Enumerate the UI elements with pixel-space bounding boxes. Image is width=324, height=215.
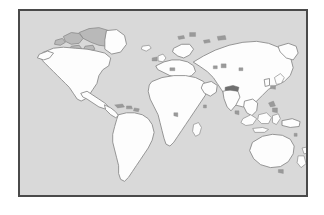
landmass-isle-asia-b (213, 66, 217, 69)
landmass-isle-europe-a (170, 68, 175, 71)
world-map-figure (18, 9, 308, 197)
world-map-svg (20, 11, 306, 195)
landmass-isle-pacific-a (294, 133, 297, 136)
landmass-caribbean-b (127, 106, 133, 109)
page-root (0, 0, 324, 215)
landmass-isle-atlantic-a (203, 105, 206, 108)
landmass-korea (265, 79, 270, 87)
landmass-isle-arctic-d (190, 33, 196, 37)
landmass-isle-arctic-b (217, 35, 226, 40)
landmass-philippines-b (272, 108, 277, 113)
landmass-isle-asia-c (221, 64, 226, 68)
landmass-isle-asia-a (239, 68, 243, 71)
